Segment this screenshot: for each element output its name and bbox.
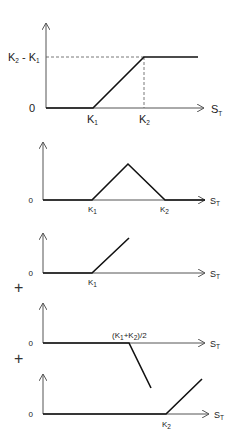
y-zero-label: 0 — [29, 196, 34, 205]
k1-label: K1 — [87, 113, 98, 126]
midpoint-label: (K1+K2)/2 — [112, 331, 147, 341]
st-axis-label: ST — [214, 410, 224, 421]
payoff-line — [43, 238, 129, 273]
y-cap-label: K2 - K1 — [8, 51, 40, 64]
payoff-line — [46, 57, 198, 108]
butterfly-payoff-diagram: 0 K2 - K1 K1 K2 ST 0 K1 K2 ST 0 K1 ST + … — [0, 0, 238, 447]
k2-label: K2 — [139, 113, 150, 126]
y-zero-label: 0 — [29, 269, 34, 278]
plus-operator-2: + — [14, 350, 23, 367]
st-axis-label: ST — [210, 196, 220, 207]
k1-label: K1 — [88, 205, 97, 215]
k2-label: K2 — [160, 205, 169, 215]
panel-butterfly: 0 K1 K2 ST — [29, 142, 220, 215]
plus-operator-1: + — [14, 279, 23, 296]
panel-short-calls-mid: 0 (K1+K2)/2 ST — [29, 303, 220, 388]
k1-label: K1 — [88, 278, 97, 288]
panel-long-call-k1: 0 K1 ST — [29, 233, 220, 288]
payoff-line — [43, 343, 151, 388]
payoff-line — [43, 164, 205, 200]
panel-long-call-k2: 0 K2 ST — [29, 374, 224, 430]
payoff-line — [43, 379, 202, 414]
y-zero-label: 0 — [29, 339, 34, 348]
panel-bull-spread: 0 K2 - K1 K1 K2 ST — [8, 23, 222, 126]
st-axis-label: ST — [211, 103, 222, 117]
k2-label: K2 — [162, 420, 171, 430]
y-zero-label: 0 — [29, 410, 34, 419]
st-axis-label: ST — [210, 269, 220, 280]
y-zero-label: 0 — [29, 102, 35, 114]
st-axis-label: ST — [210, 339, 220, 350]
